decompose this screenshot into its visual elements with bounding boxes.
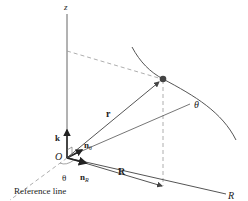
k-label: k xyxy=(55,133,60,143)
r-vector-label: r xyxy=(106,108,111,119)
cylindrical-coordinates-diagram: z r θ R R Reference line k nθ nR O θ xyxy=(0,0,248,201)
n-theta-label: nθ xyxy=(84,140,92,151)
R-vector-label: R xyxy=(118,166,126,177)
r-vector xyxy=(68,82,159,157)
origin-label: O xyxy=(55,151,62,162)
particle xyxy=(160,76,167,83)
theta-line-label: θ xyxy=(194,99,199,110)
R-axis-label: R xyxy=(227,190,234,201)
reference-line-label: Reference line xyxy=(14,186,66,196)
z-axis-label: z xyxy=(63,2,68,12)
theta-angle-label: θ xyxy=(62,173,66,183)
z-projection-dashed xyxy=(67,51,162,79)
R-axis-line xyxy=(68,158,226,194)
trajectory-curve xyxy=(132,47,236,140)
n-R-label: nR xyxy=(80,172,89,183)
